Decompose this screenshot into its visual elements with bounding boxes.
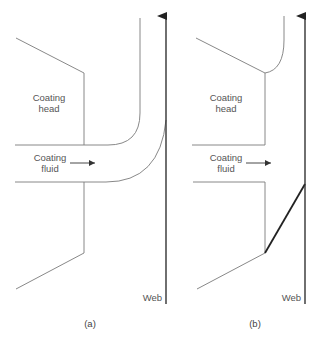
caption-a: (a) — [84, 318, 96, 329]
lower-head-outline-a — [15, 182, 84, 289]
head-label-b-line1: Coating — [210, 92, 243, 103]
web-label-a: Web — [143, 292, 162, 303]
caption-b: (b) — [249, 318, 261, 329]
fluid-label-b-line2: fluid — [217, 163, 234, 174]
head-label-b-line2: head — [215, 103, 236, 114]
fluid-label-a-line1: Coating — [34, 152, 67, 163]
lower-head-outline-b — [193, 182, 265, 289]
web-label-b: Web — [282, 292, 301, 303]
head-label-a-line2: head — [38, 103, 59, 114]
panel-b: Coating head Coating fluid Web (b) — [192, 16, 305, 329]
bead-upper-boundary-a — [84, 18, 140, 145]
head-label-a-line1: Coating — [33, 92, 66, 103]
fluid-label-a-line2: fluid — [41, 163, 58, 174]
coating-diagram: Coating head Coating fluid Web (a) Coati… — [0, 0, 321, 343]
fluid-label-b-line1: Coating — [210, 152, 243, 163]
bead-lower-meniscus-b — [265, 184, 305, 253]
panel-a: Coating head Coating fluid Web (a) — [15, 16, 166, 329]
upper-meniscus-b — [265, 16, 284, 73]
bead-lower-boundary-a — [84, 120, 166, 182]
